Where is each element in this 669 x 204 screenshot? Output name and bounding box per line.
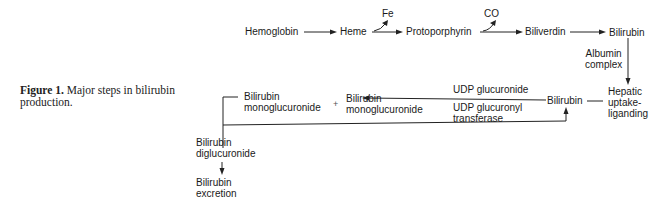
diglucuronide-line2: diglucuronide [196, 148, 256, 159]
diglucuronide-line1: Bilirubin [196, 137, 256, 148]
node-bilirubin-mid: Bilirubin [547, 95, 583, 106]
hepatic-line1: Hepatic [608, 86, 648, 97]
arrowhead-excretion [220, 168, 225, 175]
arrowhead-bilirubin-top [599, 30, 606, 35]
node-excretion: Bilirubin excretion [196, 177, 237, 199]
label-albumin-line2: complex [585, 59, 622, 70]
monoglucuronide-left-line2: monoglucuronide [244, 102, 321, 113]
node-hemoglobin: Hemoglobin [245, 26, 298, 37]
monoglucuronide-right-line2: monoglucuronide [346, 104, 423, 115]
node-monoglucuronide-left: Bilirubin monoglucuronide [244, 91, 321, 113]
node-fe: Fe [382, 8, 394, 19]
node-diglucuronide: Bilirubin diglucuronide [196, 137, 256, 159]
arrowhead-fe [382, 20, 388, 26]
label-udp-glucuronide: UDP glucuronide [453, 84, 528, 95]
node-hepatic-uptake: Hepatic uptake- liganding [608, 86, 648, 119]
node-protoporphyrin: Protoporphyrin [406, 26, 472, 37]
arrowhead-protoporphyrin [396, 30, 403, 35]
arrowhead-heme [330, 30, 337, 35]
monoglucuronide-right-line1: Bilirubin [346, 93, 423, 104]
hepatic-line3: liganding [608, 108, 648, 119]
arrowhead-loop-back [564, 107, 569, 114]
node-bilirubin-top: Bilirubin [609, 27, 645, 38]
hepatic-line2: uptake- [608, 97, 648, 108]
label-albumin-line1: Albumin [585, 48, 622, 59]
node-heme: Heme [340, 26, 367, 37]
excretion-line1: Bilirubin [196, 177, 237, 188]
node-monoglucuronide-right: Bilirubin monoglucuronide [346, 93, 423, 115]
arrowhead-hepatic [626, 78, 631, 85]
monoglucuronide-left-line1: Bilirubin [244, 91, 321, 102]
arrowhead-biliverdin [516, 30, 523, 35]
label-albumin-complex: Albumin complex [585, 48, 622, 70]
label-udp-transferase: UDP glucuronyl transferase [453, 102, 522, 124]
node-biliverdin: Biliverdin [525, 26, 566, 37]
excretion-line2: excretion [196, 188, 237, 199]
plus-sign: + [333, 99, 338, 110]
node-co: CO [484, 8, 499, 19]
udp-transferase-line1: UDP glucuronyl [453, 102, 522, 113]
udp-transferase-line2: transferase [453, 113, 522, 124]
